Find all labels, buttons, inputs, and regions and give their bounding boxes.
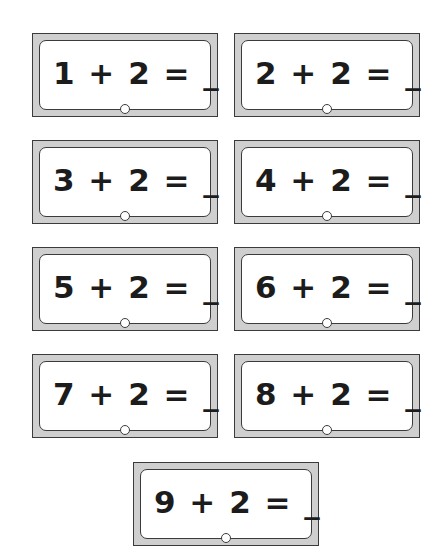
flashcard-panel: 8 + 2 = _ <box>241 361 413 431</box>
equation-text: 3 + 2 = _ <box>40 165 220 196</box>
flashcard[interactable]: 8 + 2 = _ <box>234 354 420 438</box>
flashcard-panel: 9 + 2 = _ <box>140 469 312 539</box>
punch-hole-icon <box>322 425 332 435</box>
punch-hole-icon <box>322 318 332 328</box>
equation-text: 6 + 2 = _ <box>242 272 422 303</box>
flashcard[interactable]: 9 + 2 = _ <box>133 462 319 546</box>
equation-text: 2 + 2 = _ <box>242 58 422 89</box>
punch-hole-icon <box>322 211 332 221</box>
equation-text: 4 + 2 = _ <box>242 165 422 196</box>
flashcard[interactable]: 5 + 2 = _ <box>32 247 218 331</box>
flashcard-panel: 6 + 2 = _ <box>241 254 413 324</box>
flashcard-panel: 7 + 2 = _ <box>39 361 211 431</box>
flashcard-panel: 4 + 2 = _ <box>241 147 413 217</box>
flashcard[interactable]: 3 + 2 = _ <box>32 140 218 224</box>
equation-text: 8 + 2 = _ <box>242 379 422 410</box>
flashcard-panel: 2 + 2 = _ <box>241 40 413 110</box>
equation-text: 7 + 2 = _ <box>40 379 220 410</box>
flashcard-panel: 5 + 2 = _ <box>39 254 211 324</box>
worksheet-sheet: 1 + 2 = _2 + 2 = _3 + 2 = _4 + 2 = _5 + … <box>0 0 439 560</box>
flashcard-grid: 1 + 2 = _2 + 2 = _3 + 2 = _4 + 2 = _5 + … <box>0 0 439 560</box>
flashcard[interactable]: 6 + 2 = _ <box>234 247 420 331</box>
punch-hole-icon <box>120 211 130 221</box>
flashcard-panel: 1 + 2 = _ <box>39 40 211 110</box>
flashcard[interactable]: 4 + 2 = _ <box>234 140 420 224</box>
equation-text: 5 + 2 = _ <box>40 272 220 303</box>
flashcard[interactable]: 1 + 2 = _ <box>32 33 218 117</box>
punch-hole-icon <box>322 104 332 114</box>
punch-hole-icon <box>221 533 231 543</box>
punch-hole-icon <box>120 104 130 114</box>
flashcard[interactable]: 7 + 2 = _ <box>32 354 218 438</box>
flashcard-panel: 3 + 2 = _ <box>39 147 211 217</box>
equation-text: 9 + 2 = _ <box>141 487 321 518</box>
flashcard[interactable]: 2 + 2 = _ <box>234 33 420 117</box>
equation-text: 1 + 2 = _ <box>40 58 220 89</box>
punch-hole-icon <box>120 425 130 435</box>
punch-hole-icon <box>120 318 130 328</box>
